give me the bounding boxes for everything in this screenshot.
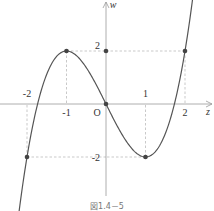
y-tick-label: 2 [95,40,100,51]
y-tick-label: -2 [92,152,100,163]
x-tick-label: -1 [62,107,70,118]
tick-labels: -2-1122-2Ozw [23,0,210,163]
data-point [64,49,69,54]
axes [0,2,212,196]
x-tick-label: -2 [23,88,31,99]
data-point [104,49,109,54]
origin-label: O [93,107,100,118]
data-point [183,49,188,54]
cubic-function-plot: -2-1122-2Ozw [0,0,214,211]
data-point [25,155,30,160]
data-point [143,155,148,160]
x-axis-label: z [205,106,210,117]
x-tick-label: 1 [143,88,148,99]
figure-caption: 図1.4－5 [0,200,214,211]
data-point [104,102,109,107]
y-axis-label: w [110,0,117,10]
x-tick-label: 2 [183,107,188,118]
